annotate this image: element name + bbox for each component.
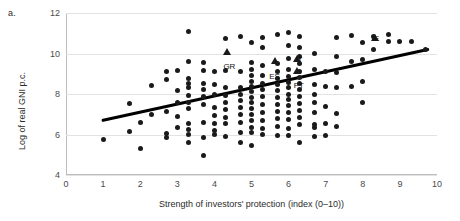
country-label-it: IT <box>295 55 302 64</box>
x-tick-label-3: 3 <box>175 179 180 189</box>
data-point <box>201 60 206 65</box>
country-marker-pt <box>293 67 301 74</box>
data-point <box>249 106 254 111</box>
data-point <box>260 35 265 40</box>
data-point <box>238 140 243 145</box>
country-label-pt: PT <box>294 81 304 90</box>
data-point <box>238 34 243 39</box>
y-tick-label-4: 4 <box>55 170 60 180</box>
data-point <box>238 92 243 97</box>
data-point <box>249 130 254 135</box>
x-tick-label-6: 6 <box>286 179 291 189</box>
x-tick-label-10: 10 <box>432 179 442 189</box>
data-point <box>175 68 180 73</box>
data-point <box>286 117 291 122</box>
data-point <box>186 93 191 98</box>
data-point <box>275 133 280 138</box>
y-tick-label-12: 12 <box>50 8 60 18</box>
y-tick-label-8: 8 <box>55 89 60 99</box>
data-point <box>186 106 191 111</box>
data-point <box>297 115 302 120</box>
data-point <box>286 92 291 97</box>
country-label-ie: IE <box>372 34 380 43</box>
data-point <box>175 114 180 119</box>
x-tick-label-4: 4 <box>212 179 217 189</box>
data-point <box>212 92 217 97</box>
data-point <box>186 59 191 64</box>
x-tick-label-0: 0 <box>63 179 68 189</box>
data-point <box>164 109 169 114</box>
data-point <box>260 102 265 107</box>
data-point <box>260 118 265 123</box>
plot-area: 4681012 012345678910 GRESITPTIE <box>66 13 437 175</box>
data-point <box>186 140 191 145</box>
data-point <box>312 125 317 130</box>
data-point <box>286 30 291 35</box>
data-point <box>238 98 243 103</box>
data-point <box>223 134 228 139</box>
gridline-y-4 <box>66 175 437 176</box>
data-point <box>164 69 169 74</box>
data-point <box>249 112 254 117</box>
data-point <box>212 113 217 118</box>
country-marker-gr <box>223 48 231 55</box>
data-point <box>323 104 328 109</box>
data-point <box>223 121 228 126</box>
x-tick-label-5: 5 <box>249 179 254 189</box>
data-point <box>212 121 217 126</box>
country-label-es: ES <box>269 72 280 81</box>
data-point <box>275 109 280 114</box>
data-point <box>186 132 191 137</box>
data-point <box>249 40 254 45</box>
x-tick-label-9: 9 <box>397 179 402 189</box>
data-point <box>249 100 254 105</box>
data-point <box>286 97 291 102</box>
data-point <box>212 132 217 137</box>
data-point <box>238 112 243 117</box>
x-tick-label-8: 8 <box>360 179 365 189</box>
x-tick-label-7: 7 <box>323 179 328 189</box>
data-point <box>297 101 302 106</box>
data-point <box>286 43 291 48</box>
data-point <box>275 95 280 100</box>
data-point <box>260 94 265 99</box>
data-point <box>127 101 132 106</box>
data-point <box>149 112 154 117</box>
data-point <box>186 100 191 105</box>
data-point <box>186 121 191 126</box>
data-point <box>201 120 206 125</box>
x-tick-label-1: 1 <box>101 179 106 189</box>
data-point <box>175 100 180 105</box>
data-point <box>164 77 169 82</box>
data-point <box>238 105 243 110</box>
data-point <box>312 100 317 105</box>
country-label-gr: GR <box>223 62 235 71</box>
data-point <box>275 102 280 107</box>
data-point <box>101 137 106 142</box>
data-point <box>297 108 302 113</box>
data-point <box>201 68 206 73</box>
data-point <box>164 135 169 140</box>
data-point <box>138 120 143 125</box>
data-point <box>275 124 280 129</box>
data-point <box>201 135 206 140</box>
data-point <box>212 105 217 110</box>
data-point <box>286 110 291 115</box>
data-point <box>223 107 228 112</box>
x-axis-title: Strength of investors' protection (index… <box>66 199 437 209</box>
data-point <box>249 118 254 123</box>
data-point <box>223 100 228 105</box>
data-point <box>409 39 414 44</box>
data-point <box>201 94 206 99</box>
data-point <box>249 95 254 100</box>
data-point <box>297 34 302 39</box>
data-point <box>223 36 228 41</box>
x-tick-label-2: 2 <box>138 179 143 189</box>
data-point <box>312 92 317 97</box>
data-point <box>260 110 265 115</box>
chart-figure: a. Log of real GNI p.c. Strength of inve… <box>0 0 460 221</box>
country-marker-es <box>271 57 279 64</box>
data-point <box>223 115 228 120</box>
data-point <box>238 130 243 135</box>
data-point <box>360 100 365 105</box>
